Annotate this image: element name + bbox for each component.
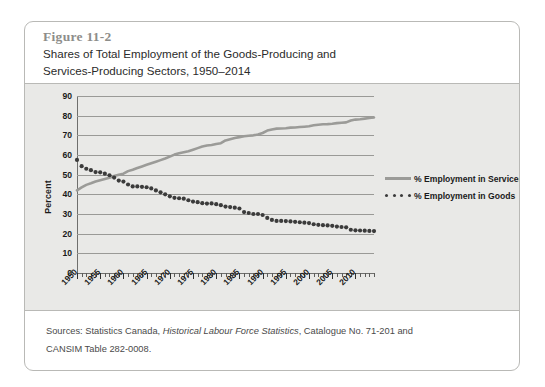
source-prefix: Sources: Statistics Canada, [46,326,160,336]
goods-data-point [293,220,297,224]
x-axis-minor-tick [369,273,370,277]
legend-label: % Employment in Goods [414,191,515,201]
goods-data-point [312,222,316,226]
goods-data-point [158,190,162,194]
goods-data-point [242,210,246,214]
goods-data-point [270,218,274,222]
y-axis-tick-label: 70 [62,130,72,140]
goods-data-point [339,225,343,229]
chart-legend: % Employment in Services% Employment in … [385,170,515,204]
goods-data-point [172,196,176,200]
goods-data-point [89,168,93,172]
goods-data-point [112,176,116,180]
goods-data-point [367,229,371,233]
goods-data-point [103,172,107,176]
x-axis-minor-tick [198,273,199,277]
goods-data-point [316,223,320,227]
x-axis-minor-tick [337,273,338,277]
x-axis-minor-tick [151,273,152,277]
goods-data-point [196,200,200,204]
goods-data-point [140,185,144,189]
goods-data-point [274,219,278,223]
goods-data-point [233,206,237,210]
y-axis-tick-label: 40 [62,189,72,199]
figure-header: Figure 11-2 Shares of Total Employment o… [25,22,519,84]
goods-data-point [358,228,362,232]
goods-data-point [256,212,260,216]
goods-data-point [223,204,227,208]
x-axis-minor-tick [221,273,222,277]
goods-data-point [265,216,269,220]
goods-data-point [228,205,232,209]
y-axis-tick-label: 20 [62,229,72,239]
goods-data-point [261,213,265,217]
services-line-series [77,117,374,190]
x-axis-minor-tick [82,273,83,277]
y-axis-tick-label: 90 [62,91,72,101]
goods-dotted-series [75,158,376,233]
goods-data-point [335,224,339,228]
goods-data-point [93,170,97,174]
figure-number: Figure 11-2 [43,29,519,45]
goods-data-point [325,223,329,227]
goods-data-point [117,178,121,182]
source-line-2: CANSIM Table 282-0008. [46,341,499,359]
goods-data-point [247,211,251,215]
plot-band: Percent 0102030405060708090 195019551960… [25,84,519,310]
goods-data-point [372,229,376,233]
goods-data-point [219,203,223,207]
goods-data-point [168,194,172,198]
goods-data-point [75,158,79,162]
goods-data-point [209,201,213,205]
x-axis-minor-tick [360,273,361,277]
x-axis-minor-tick [290,273,291,277]
figure-title-line-1: Shares of Total Employment of the Goods-… [43,46,463,63]
legend-item[interactable]: % Employment in Services [385,170,515,187]
x-axis-minor-tick [128,273,129,277]
legend-label: % Employment in Services [414,174,520,184]
y-axis-tick-label: 60 [62,150,72,160]
chart-plot-area: 0102030405060708090 19501955196019651970… [77,96,374,273]
goods-data-point [186,198,190,202]
x-axis-minor-tick [374,273,375,277]
goods-data-point [145,185,149,189]
goods-data-point [251,212,255,216]
x-axis-minor-tick [105,273,106,277]
source-line-1: Sources: Statistics Canada, Historical L… [46,323,499,341]
goods-data-point [163,192,167,196]
y-axis-title: Percent [43,180,53,214]
legend-swatch-dotted [385,191,411,201]
goods-data-point [80,164,84,168]
goods-data-point [131,184,135,188]
figure-title: Shares of Total Employment of the Goods-… [43,46,463,79]
legend-item[interactable]: % Employment in Goods [385,187,515,204]
goods-data-point [200,201,204,205]
x-axis-minor-tick [174,273,175,277]
x-axis-minor-tick [244,273,245,277]
y-axis-tick-label: 80 [62,111,72,121]
y-axis-tick-label: 10 [62,248,72,258]
goods-data-point [330,224,334,228]
x-axis-minor-tick [267,273,268,277]
goods-data-point [298,220,302,224]
y-axis-tick-label: 50 [62,170,72,180]
figure-title-line-2: Services-Producing Sectors, 1950–2014 [43,63,463,80]
goods-data-point [84,167,88,171]
y-axis-tick-label: 30 [62,209,72,219]
goods-data-point [205,201,209,205]
goods-data-point [107,173,111,177]
goods-data-point [302,221,306,225]
goods-data-point [288,219,292,223]
goods-data-point [344,225,348,229]
goods-data-point [154,188,158,192]
goods-data-point [237,206,241,210]
x-axis-minor-tick [314,273,315,277]
goods-data-point [126,182,130,186]
goods-data-point [363,229,367,233]
goods-data-point [121,179,125,183]
goods-data-point [177,196,181,200]
goods-data-point [98,170,102,174]
series-plot [77,96,374,273]
legend-swatch-line [385,174,411,184]
x-axis-minor-tick [365,273,366,277]
